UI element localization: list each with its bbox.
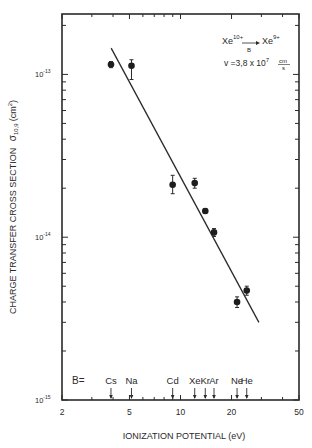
target-marker: Xe: [189, 375, 201, 399]
y-tick-label: 10-15: [35, 394, 51, 405]
reaction-annotation: Xe10+ B Xe9+: [222, 34, 280, 53]
svg-text:cm: cm: [279, 58, 287, 64]
data-points: [108, 60, 250, 308]
x-tick-label: 10: [176, 407, 186, 417]
data-point: [169, 175, 176, 193]
target-marker: Na: [125, 375, 138, 399]
data-point: [202, 208, 209, 215]
data-point: [128, 60, 135, 80]
y-axis-ticks: [62, 25, 299, 400]
data-point: [243, 286, 250, 295]
plot-frame: [62, 14, 299, 400]
svg-text:v =3,8 x 107: v =3,8 x 107: [224, 57, 270, 68]
svg-text:Ar: Ar: [209, 375, 219, 386]
svg-text:Cd: Cd: [167, 375, 179, 386]
x-tick-label: 2: [60, 407, 65, 417]
x-tick-label: 5: [127, 407, 132, 417]
chart: 25102050 10-1310-1410-15 Xe10+ B Xe9+ v …: [0, 0, 312, 448]
svg-text:Xe: Xe: [189, 375, 201, 386]
svg-text:CHARGE TRANSFER CROSS SECTION: CHARGE TRANSFER CROSS SECTION σ10,9(cm2): [7, 100, 19, 314]
svg-text:Cs: Cs: [105, 375, 117, 386]
x-axis-tick-labels: 25102050: [60, 407, 304, 417]
y-tick-label: 10-13: [35, 68, 51, 79]
data-point: [234, 297, 241, 308]
svg-text:s: s: [282, 65, 285, 71]
svg-text:He: He: [241, 375, 253, 386]
y-tick-label: 10-14: [35, 231, 51, 242]
y-axis-tick-labels: 10-1310-1410-15: [35, 68, 51, 405]
target-marker: Cs: [105, 375, 117, 399]
x-tick-label: 50: [294, 407, 304, 417]
target-marker: Cd: [167, 375, 179, 399]
target-prefix: B=: [72, 375, 85, 386]
svg-text:Xe9+: Xe9+: [262, 34, 280, 46]
svg-text:Na: Na: [125, 375, 138, 386]
y-axis-label: CHARGE TRANSFER CROSS SECTION σ10,9(cm2): [7, 100, 19, 314]
x-axis-ticks: [62, 14, 299, 400]
target-markers: CsNaCdXeKrArNeHe: [105, 375, 253, 399]
x-tick-label: 20: [227, 407, 237, 417]
data-point: [191, 178, 198, 188]
arrow-head-icon: [256, 41, 260, 45]
target-marker: Ar: [209, 375, 219, 399]
velocity-annotation: v =3,8 x 107 cm s: [224, 57, 290, 71]
data-point: [108, 61, 115, 68]
x-axis-label: IONIZATION POTENTIAL (eV): [123, 431, 246, 441]
svg-text:B: B: [247, 47, 251, 53]
svg-text:Xe10+: Xe10+: [222, 34, 244, 46]
fit-line: [111, 48, 259, 322]
target-marker: He: [241, 375, 253, 399]
